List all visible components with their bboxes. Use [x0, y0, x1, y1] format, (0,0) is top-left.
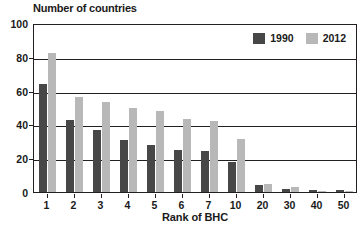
x-tick-label: 6: [179, 199, 185, 211]
x-tick-label: 40: [311, 199, 323, 211]
x-tick-mark: [290, 194, 291, 198]
legend-item-2012: 2012: [306, 33, 346, 44]
x-tick-label: 30: [284, 199, 296, 211]
x-tick-mark: [74, 194, 75, 198]
legend-item-1990: 1990: [253, 33, 293, 44]
x-axis-title: Rank of BHC: [33, 211, 357, 223]
bar-1990-20: [255, 185, 264, 192]
x-tick-label: 20: [257, 199, 269, 211]
x-tick-label: 3: [98, 199, 104, 211]
x-tick-mark: [155, 194, 156, 198]
bar-2012-5: [156, 111, 165, 192]
plot-area: 1990 2012: [33, 24, 357, 193]
bar-chart: Number of countries 1990 2012 0204060801…: [0, 0, 364, 242]
bar-1990-10: [228, 162, 237, 192]
bar-1990-3: [93, 130, 102, 192]
bar-2012-40: [318, 191, 327, 192]
bar-2012-30: [291, 187, 300, 192]
legend-label-2012: 2012: [323, 33, 346, 44]
bar-2012-20: [264, 184, 273, 192]
x-tick-mark: [128, 194, 129, 198]
x-tick-mark: [344, 194, 345, 198]
bar-2012-7: [210, 121, 219, 192]
x-tick-mark: [47, 194, 48, 198]
bar-1990-7: [201, 151, 210, 192]
bar-1990-2: [66, 120, 75, 192]
x-tick-label: 10: [230, 199, 242, 211]
bar-1990-50: [336, 190, 345, 192]
y-tick-label: 100: [0, 18, 28, 30]
bar-1990-5: [147, 145, 156, 192]
y-tick-label: 0: [0, 187, 28, 199]
bar-1990-30: [282, 189, 291, 192]
x-tick-label: 2: [71, 199, 77, 211]
y-tick-label: 20: [0, 153, 28, 165]
bar-2012-10: [237, 139, 246, 192]
legend-swatch-1990: [253, 33, 265, 44]
bar-1990-4: [120, 140, 129, 192]
y-tick-mark: [29, 159, 33, 160]
x-tick-label: 4: [125, 199, 131, 211]
y-tick-label: 60: [0, 86, 28, 98]
bar-2012-3: [102, 102, 111, 192]
bar-2012-2: [75, 97, 84, 192]
bar-2012-1: [48, 53, 57, 192]
legend-label-1990: 1990: [270, 33, 293, 44]
x-tick-label: 1: [44, 199, 50, 211]
y-axis-title: Number of countries: [33, 2, 137, 14]
x-tick-mark: [263, 194, 264, 198]
x-tick-mark: [101, 194, 102, 198]
x-tick-label: 5: [152, 199, 158, 211]
x-tick-mark: [182, 194, 183, 198]
x-tick-label: 50: [338, 199, 350, 211]
bar-2012-4: [129, 108, 138, 193]
y-tick-mark: [29, 58, 33, 59]
bar-2012-50: [345, 191, 354, 192]
bar-1990-6: [174, 150, 183, 192]
bar-2012-6: [183, 119, 192, 192]
x-tick-label: 7: [206, 199, 212, 211]
x-tick-mark: [209, 194, 210, 198]
x-tick-mark: [317, 194, 318, 198]
bar-1990-1: [39, 84, 48, 192]
y-tick-label: 40: [0, 119, 28, 131]
legend-swatch-2012: [306, 33, 318, 44]
bars-layer: [34, 25, 356, 192]
y-tick-mark: [29, 92, 33, 93]
y-tick-label: 80: [0, 52, 28, 64]
y-tick-mark: [29, 125, 33, 126]
x-tick-mark: [236, 194, 237, 198]
legend: 1990 2012: [253, 33, 346, 44]
bar-1990-40: [309, 190, 318, 192]
